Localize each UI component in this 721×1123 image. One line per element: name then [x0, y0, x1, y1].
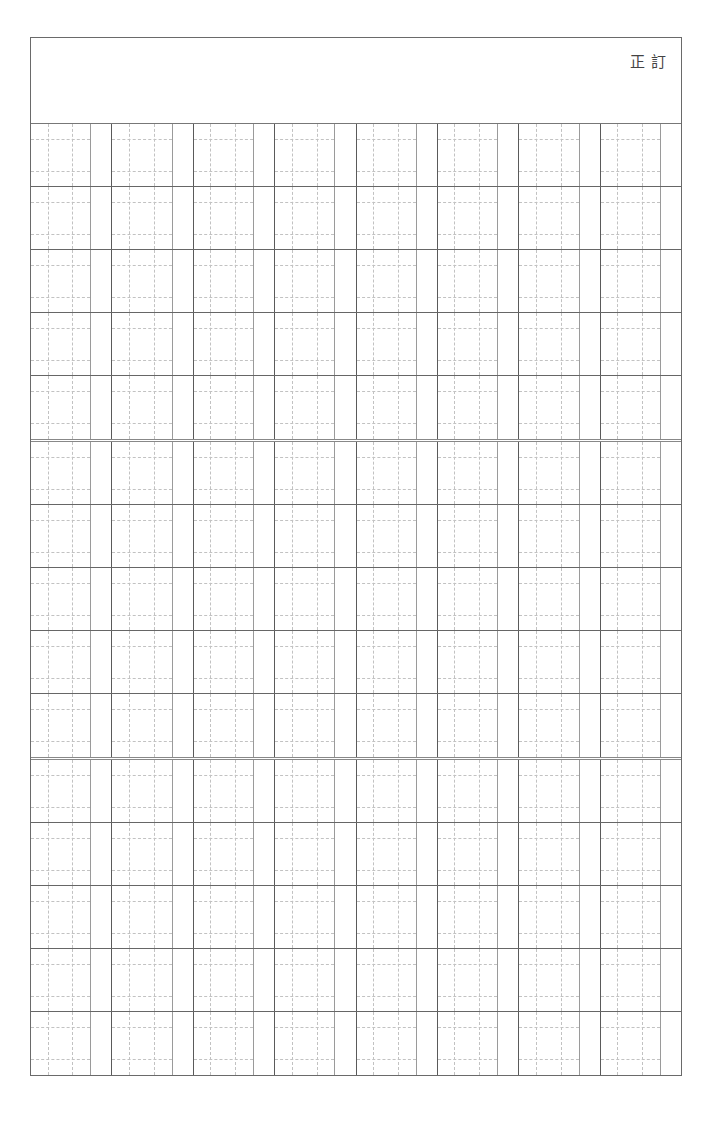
guide-line	[194, 646, 253, 647]
guide-line	[454, 568, 455, 630]
grid-row	[31, 376, 681, 439]
guide-line	[373, 313, 374, 375]
guide-line	[48, 823, 49, 885]
guide-line	[536, 631, 537, 693]
ruby-strip	[417, 1012, 437, 1075]
guide-line	[536, 568, 537, 630]
writing-square	[519, 187, 579, 249]
guide-line	[235, 376, 236, 439]
ruby-strip	[335, 631, 355, 693]
guide-line	[154, 313, 155, 375]
ruby-strip	[335, 886, 355, 948]
ruby-strip	[335, 187, 355, 249]
writing-square	[31, 631, 91, 693]
grid-cell	[274, 694, 355, 757]
guide-line	[438, 741, 497, 742]
grid-cell	[356, 886, 437, 948]
guide-line	[357, 838, 416, 839]
ruby-strip	[254, 1012, 274, 1075]
guide-line	[357, 901, 416, 902]
guide-line	[601, 552, 660, 553]
ruby-strip	[335, 1012, 355, 1075]
guide-line	[210, 187, 211, 249]
grid-cell	[437, 760, 518, 822]
ruby-strip	[173, 631, 193, 693]
guide-line	[357, 996, 416, 997]
grid-cell	[518, 250, 599, 312]
guide-line	[617, 505, 618, 567]
guide-line	[31, 423, 90, 424]
guide-line	[112, 423, 171, 424]
ruby-strip	[254, 313, 274, 375]
guide-line	[479, 631, 480, 693]
guide-line	[373, 250, 374, 312]
guide-line	[519, 838, 578, 839]
writing-square	[112, 760, 172, 822]
ruby-strip	[580, 1012, 600, 1075]
grid-block	[31, 757, 681, 1075]
guide-line	[617, 694, 618, 757]
guide-line	[31, 1027, 90, 1028]
guide-line	[642, 823, 643, 885]
ruby-strip	[417, 694, 437, 757]
grid-cell	[518, 949, 599, 1011]
guide-line	[438, 870, 497, 871]
writing-square	[601, 886, 661, 948]
writing-square	[519, 250, 579, 312]
guide-line	[129, 442, 130, 504]
guide-line	[31, 678, 90, 679]
guide-line	[601, 996, 660, 997]
guide-line	[275, 202, 334, 203]
guide-line	[210, 760, 211, 822]
grid-cell	[518, 760, 599, 822]
grid-cell	[274, 760, 355, 822]
ruby-strip	[254, 250, 274, 312]
ruby-strip	[498, 124, 518, 186]
guide-line	[210, 568, 211, 630]
guide-line	[519, 520, 578, 521]
ruby-strip	[580, 760, 600, 822]
grid-cell	[31, 694, 111, 757]
ruby-strip	[661, 760, 681, 822]
ruby-strip	[498, 376, 518, 439]
guide-line	[194, 709, 253, 710]
guide-line	[210, 313, 211, 375]
writing-square	[275, 442, 335, 504]
grid-cell	[111, 694, 192, 757]
guide-line	[398, 313, 399, 375]
guide-line	[154, 631, 155, 693]
guide-line	[642, 886, 643, 948]
guide-line	[479, 694, 480, 757]
writing-square	[31, 823, 91, 885]
writing-square	[438, 187, 498, 249]
guide-line	[129, 124, 130, 186]
ruby-strip	[254, 949, 274, 1011]
guide-line	[154, 1012, 155, 1075]
guide-line	[642, 949, 643, 1011]
guide-line	[317, 124, 318, 186]
grid-cell	[31, 376, 111, 439]
guide-line	[235, 505, 236, 567]
grid-cell	[437, 568, 518, 630]
guide-line	[519, 741, 578, 742]
guide-line	[292, 694, 293, 757]
guide-line	[357, 171, 416, 172]
ruby-strip	[661, 250, 681, 312]
guide-line	[48, 886, 49, 948]
ruby-strip	[580, 187, 600, 249]
manuscript-grid	[31, 124, 681, 1075]
ruby-strip	[173, 124, 193, 186]
writing-square	[275, 823, 335, 885]
ruby-strip	[417, 124, 437, 186]
grid-cell	[31, 187, 111, 249]
guide-line	[454, 1012, 455, 1075]
writing-square	[112, 1012, 172, 1075]
guide-line	[194, 520, 253, 521]
writing-square	[31, 442, 91, 504]
grid-row	[31, 505, 681, 568]
writing-square	[194, 376, 254, 439]
guide-line	[194, 615, 253, 616]
guide-line	[275, 552, 334, 553]
ruby-strip	[335, 760, 355, 822]
writing-square	[31, 568, 91, 630]
